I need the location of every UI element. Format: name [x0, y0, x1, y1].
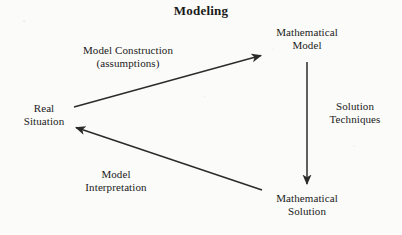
modeling-diagram: Modeling Mathematical Model Real Situati…	[0, 0, 402, 235]
node-real-situation: Real Situation	[2, 102, 86, 128]
edge-label-model-construction: Model Construction (assumptions)	[58, 44, 198, 70]
node-mathematical-model: Mathematical Model	[252, 26, 362, 52]
edge-label-model-interpretation: Model Interpretation	[58, 168, 174, 194]
node-mathematical-solution: Mathematical Solution	[252, 192, 362, 218]
edge-label-solution-techniques: Solution Techniques	[312, 100, 398, 126]
